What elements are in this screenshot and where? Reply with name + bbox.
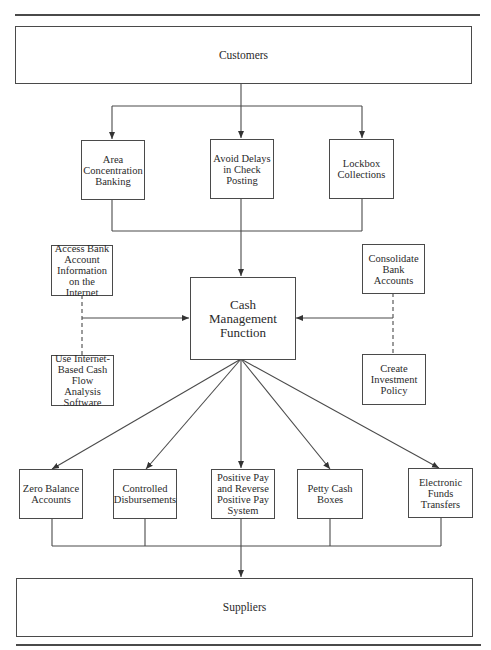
- access-bank-info-box: Access Bank Account Information on the I…: [51, 245, 113, 296]
- positive-pay-box: Positive Pay and Reverse Positive Pay Sy…: [211, 469, 275, 519]
- lockbox-collections-box: Lockbox Collections: [329, 139, 394, 199]
- box-label: Petty Cash Boxes: [299, 483, 361, 505]
- box-label: Access Bank Account Information on the I…: [53, 243, 111, 298]
- box-label: Avoid Delays in Check Posting: [212, 153, 272, 186]
- box-label: Electronic Funds Transfers: [410, 477, 471, 510]
- box-label: Consolidate Bank Accounts: [364, 253, 423, 286]
- zero-balance-accounts-box: Zero Balance Accounts: [19, 469, 83, 519]
- box-label: Positive Pay and Reverse Positive Pay Sy…: [213, 472, 273, 516]
- box-label: Area Concentration Banking: [83, 154, 143, 187]
- box-label: Create Investment Policy: [364, 363, 424, 396]
- electronic-funds-transfers-box: Electronic Funds Transfers: [408, 468, 473, 518]
- customers-box: Customers: [15, 26, 472, 84]
- consolidate-bank-accounts-box: Consolidate Bank Accounts: [362, 244, 425, 294]
- customers-label: Customers: [219, 50, 268, 61]
- box-label: Use Internet-Based Cash Flow Analysis So…: [53, 353, 112, 408]
- controlled-disbursements-box: Controlled Disbursements: [113, 469, 177, 519]
- avoid-delays-box: Avoid Delays in Check Posting: [210, 139, 274, 199]
- box-label: Zero Balance Accounts: [21, 483, 81, 505]
- suppliers-box: Suppliers: [16, 578, 473, 637]
- box-label: Controlled Disbursements: [114, 483, 176, 505]
- cash-management-function-box: Cash Management Function: [190, 277, 296, 360]
- petty-cash-boxes-box: Petty Cash Boxes: [297, 469, 363, 519]
- area-concentration-banking-box: Area Concentration Banking: [81, 140, 145, 200]
- center-label: Cash Management Function: [199, 298, 287, 340]
- cash-flow-software-box: Use Internet-Based Cash Flow Analysis So…: [51, 355, 114, 406]
- create-investment-policy-box: Create Investment Policy: [362, 354, 426, 405]
- suppliers-label: Suppliers: [223, 602, 266, 613]
- box-label: Lockbox Collections: [331, 158, 392, 180]
